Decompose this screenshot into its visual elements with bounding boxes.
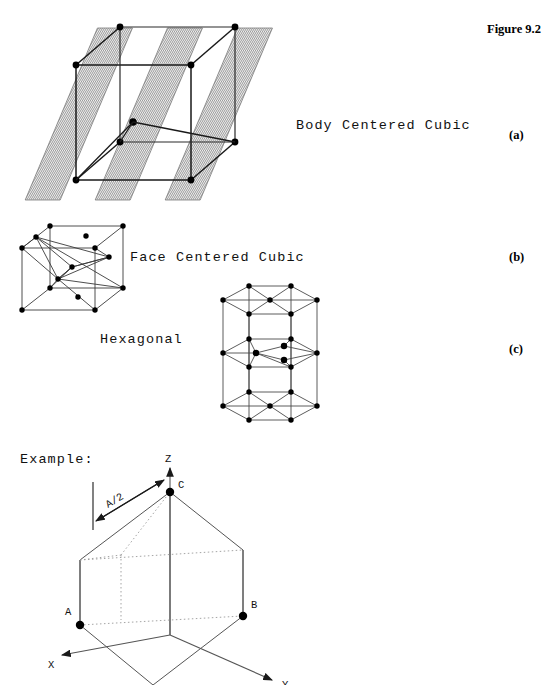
figure-canvas: Z Y X C B A A/2 Body Centered Cubic Face… xyxy=(0,0,556,688)
atom-hex-bottom xyxy=(246,389,251,394)
atom-hex-middle xyxy=(288,336,293,341)
point-c-marker xyxy=(166,488,174,496)
example-intercept-points xyxy=(76,488,247,629)
point-c-label: C xyxy=(178,479,184,491)
dimension-label: A/2 xyxy=(103,491,125,511)
atom-hex-middle xyxy=(246,364,251,369)
panel-title-hexagonal: Hexagonal xyxy=(100,332,183,347)
atom-corner xyxy=(92,307,97,312)
panel-tag-b: (b) xyxy=(509,250,524,265)
face-centered-cubic-diagram xyxy=(12,218,142,318)
atom-hex-bottom xyxy=(246,417,251,422)
atom-face-center xyxy=(83,233,88,238)
atom-hex-interior xyxy=(281,343,287,349)
panel-tag-c: (c) xyxy=(509,342,523,357)
atom-hex-top xyxy=(220,297,225,302)
atom-hex-middle xyxy=(314,350,319,355)
atom-hex-bottom xyxy=(220,403,225,408)
panel-title-face-centered-cubic: Face Centered Cubic xyxy=(130,250,305,265)
atom-hex-bottom xyxy=(288,417,293,422)
point-b-marker xyxy=(239,612,247,620)
atom-corner xyxy=(19,307,24,312)
atom-face-center xyxy=(55,276,60,281)
y-axis-label: Y xyxy=(282,679,289,685)
example-miller-index-diagram: Z Y X C B A A/2 xyxy=(10,440,340,685)
figure-caption: Figure 9.2 xyxy=(487,22,541,37)
atom-hex-middle xyxy=(220,350,225,355)
atom-corner xyxy=(73,62,80,69)
hex-middle-interior xyxy=(223,339,317,367)
hexagonal-diagram xyxy=(215,278,365,423)
panel-tag-a: (a) xyxy=(509,128,524,143)
atom-hex-middle xyxy=(246,336,251,341)
x-axis-label: X xyxy=(48,659,55,671)
atom-hex-bottom xyxy=(314,403,319,408)
atom-hex-top-center xyxy=(267,297,272,302)
point-a-marker xyxy=(76,621,84,629)
atom-hex-top xyxy=(288,283,293,288)
atom-hex-middle xyxy=(288,364,293,369)
atom-face-center xyxy=(75,294,80,299)
atom-hex-bottom xyxy=(288,389,293,394)
atom-face-center xyxy=(106,254,111,259)
example-label: Example: xyxy=(20,452,94,467)
fcc-close-packed-plane xyxy=(36,237,109,267)
atom-hex-top xyxy=(314,297,319,302)
atom-hex-interior xyxy=(281,357,287,363)
atom-corner xyxy=(117,24,124,31)
atom-hex-bottom-center xyxy=(267,403,272,408)
atom-face-center xyxy=(33,234,38,239)
x-axis-line xyxy=(62,635,170,655)
atom-hex-top xyxy=(288,311,293,316)
atom-corner xyxy=(47,285,52,290)
atom-hex-interior xyxy=(253,350,259,356)
body-centered-cubic-diagram xyxy=(20,10,290,215)
y-axis-line xyxy=(170,635,272,680)
z-axis-label: Z xyxy=(165,453,171,465)
atom-corner xyxy=(92,245,97,250)
atom-corner xyxy=(47,223,52,228)
atom-corner xyxy=(19,245,24,250)
atom-corner xyxy=(188,177,195,184)
example-hidden-lines xyxy=(80,492,243,625)
atom-corner xyxy=(188,62,195,69)
atom-corner xyxy=(120,285,125,290)
atom-hex-top xyxy=(246,283,251,288)
atom-face-center xyxy=(69,264,74,269)
atom-corner xyxy=(120,223,125,228)
panel-title-body-centered-cubic: Body Centered Cubic xyxy=(296,118,471,133)
point-a-label: A xyxy=(65,606,72,618)
atom-hex-top xyxy=(246,311,251,316)
point-b-label: B xyxy=(251,599,257,611)
atom-corner xyxy=(232,24,239,31)
